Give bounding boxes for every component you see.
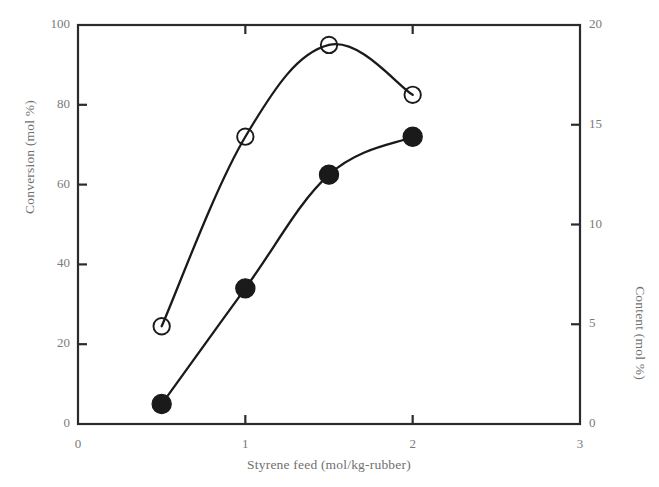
- axis-frame: [78, 25, 580, 424]
- y-axis-right-ticks: [571, 125, 580, 325]
- data-point-content-2: [319, 165, 338, 184]
- y-axis-right-title: Content (mol %): [632, 133, 648, 487]
- x-tick-label-2: 2: [393, 436, 433, 452]
- data-point-content-0: [152, 394, 171, 413]
- y-right-tick-label-20: 20: [589, 16, 629, 32]
- plot-canvas: [0, 0, 659, 487]
- data-point-content-3: [403, 127, 422, 146]
- x-tick-label-1: 1: [225, 436, 265, 452]
- x-axis-title: Styrene feed (mol/kg-rubber): [78, 457, 580, 473]
- chart-figure: 020406080100051015200123 Conversion (mol…: [0, 0, 659, 487]
- data-point-content-1: [236, 279, 255, 298]
- x-tick-label-0: 0: [58, 436, 98, 452]
- y-right-tick-label-5: 5: [589, 315, 629, 331]
- data-point-conversion-3: [404, 87, 420, 103]
- data-point-conversion-1: [237, 129, 253, 145]
- y-right-tick-label-0: 0: [589, 415, 629, 431]
- data-point-conversion-0: [153, 318, 169, 334]
- x-axis-top-ticks: [245, 25, 412, 34]
- series-curve-conversion: [162, 44, 413, 326]
- y-axis-left-title: Conversion (mol %): [22, 0, 38, 357]
- y-left-tick-label-0: 0: [30, 415, 70, 431]
- series-curves: [162, 44, 413, 404]
- series-curve-content: [162, 137, 413, 404]
- y-axis-left-ticks: [78, 105, 87, 344]
- y-right-tick-label-10: 10: [589, 216, 629, 232]
- data-point-conversion-2: [321, 37, 337, 53]
- x-axis-ticks: [245, 415, 412, 424]
- y-right-tick-label-15: 15: [589, 116, 629, 132]
- x-tick-label-3: 3: [560, 436, 600, 452]
